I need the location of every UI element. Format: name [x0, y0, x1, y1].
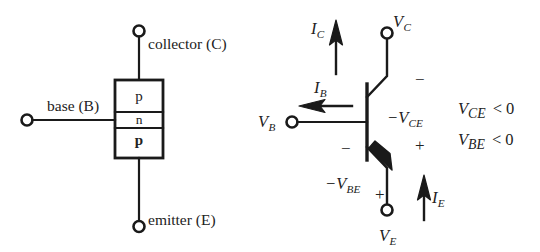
- vbe-condition-subscript: BE: [468, 137, 485, 152]
- collector-voltage-symbol: V: [393, 12, 403, 31]
- collector-terminal-node: [134, 26, 145, 37]
- collector-label: collector (C): [148, 36, 227, 52]
- emitter-arrowhead-pnp: [369, 141, 393, 170]
- emitter-current-symbol: I: [432, 188, 438, 207]
- vce-condition-relation: < 0: [493, 99, 515, 118]
- base-terminal-node: [22, 115, 33, 126]
- emitter-label: emitter (E): [148, 212, 216, 228]
- vce-voltage-subscript: CE: [409, 117, 423, 129]
- vce-condition-symbol: V: [458, 99, 468, 118]
- collector-voltage-label: VC: [393, 14, 411, 31]
- vbe-voltage-label: −VBE: [325, 176, 360, 193]
- collector-node-circle: [382, 28, 393, 39]
- collector-voltage-subscript: C: [403, 21, 410, 33]
- pnp-transistor-figure: collector (C) base (B) emitter (E) p n p…: [0, 0, 540, 252]
- emitter-voltage-symbol: V: [379, 226, 389, 245]
- base-voltage-symbol: V: [258, 112, 268, 131]
- vbe-condition: VBE< 0: [458, 132, 514, 152]
- vbe-voltage-symbol: −V: [325, 174, 346, 193]
- vce-plus-sign: +: [415, 137, 425, 154]
- emitter-current-subscript: E: [438, 197, 445, 209]
- emitter-current-label: IE: [432, 190, 444, 207]
- collector-current-subscript: C: [317, 28, 324, 40]
- base-node-circle: [287, 117, 298, 128]
- collector-current-label: IC: [311, 21, 324, 38]
- vbe-voltage-subscript: BE: [347, 183, 361, 195]
- vbe-plus-sign: +: [375, 186, 385, 203]
- vbe-condition-symbol: V: [458, 130, 468, 149]
- base-current-label: IB: [314, 80, 326, 97]
- vbe-condition-relation: < 0: [492, 130, 514, 149]
- emitter-terminal-node: [134, 221, 145, 232]
- base-current-subscript: B: [320, 87, 327, 99]
- emitter-voltage-label: VE: [379, 228, 396, 245]
- vbe-minus-sign: −: [341, 140, 351, 157]
- base-voltage-subscript: B: [268, 121, 275, 133]
- vce-condition: VCE< 0: [458, 101, 514, 121]
- vce-condition-subscript: CE: [468, 106, 486, 121]
- collector-branch-wire: [367, 39, 387, 98]
- vce-minus-sign: −: [415, 71, 425, 88]
- base-voltage-label: VB: [258, 114, 275, 131]
- vce-voltage-symbol: −V: [387, 108, 408, 127]
- base-current-symbol: I: [314, 78, 320, 97]
- collector-current-symbol: I: [311, 19, 317, 38]
- layer-symbol-base-n: n: [115, 113, 163, 127]
- base-label: base (B): [47, 98, 99, 114]
- emitter-node-circle: [382, 205, 393, 216]
- layer-symbol-emitter-p: p: [115, 133, 163, 148]
- vce-voltage-label: −VCE: [387, 110, 423, 127]
- emitter-voltage-subscript: E: [389, 235, 396, 247]
- layer-symbol-collector-p: p: [115, 89, 163, 104]
